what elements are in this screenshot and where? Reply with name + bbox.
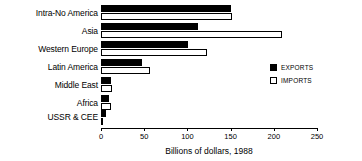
legend-swatch-exports-icon [270, 64, 277, 71]
x-tick [274, 128, 275, 131]
x-axis-line [101, 128, 317, 129]
bar-exports [101, 23, 198, 30]
category-label-latin-america: Latin America [0, 63, 98, 72]
chart-legend: EXPORTS IMPORTS [270, 62, 313, 88]
x-tick [187, 128, 188, 131]
category-label-middle-east: Middle East [0, 81, 98, 90]
bar-imports [101, 13, 232, 20]
x-tick-label: 250 [311, 133, 324, 141]
bar-imports [101, 67, 150, 74]
x-tick [317, 128, 318, 131]
bar-imports [101, 31, 282, 38]
category-label-ussr-cee: USSR & CEE [0, 113, 98, 122]
category-label-western-europe: Western Europe [0, 45, 98, 54]
bar-exports [101, 77, 111, 84]
legend-item-imports: IMPORTS [270, 75, 313, 86]
bar-exports [101, 110, 106, 117]
x-tick-label: 50 [140, 133, 148, 141]
legend-item-exports: EXPORTS [270, 62, 313, 73]
legend-label-imports: IMPORTS [281, 77, 312, 84]
category-label-asia: Asia [0, 27, 98, 36]
legend-label-exports: EXPORTS [281, 64, 313, 71]
bar-exports [101, 59, 142, 66]
bar-exports [101, 5, 231, 12]
category-label-intra-no-america: Intra-No America [0, 9, 98, 18]
category-label-africa: Africa [0, 99, 98, 108]
bar-exports [101, 41, 188, 48]
x-tick [101, 128, 102, 131]
bar-imports [101, 103, 111, 110]
bar-imports [101, 85, 112, 92]
bar-imports [101, 49, 207, 56]
bar-chart: Intra-No America Asia Western Europe Lat… [0, 0, 362, 161]
x-tick-label: 0 [99, 133, 103, 141]
x-tick [231, 128, 232, 131]
bar-imports [101, 118, 103, 125]
category-axis-labels: Intra-No America Asia Western Europe Lat… [0, 0, 98, 125]
x-tick-label: 150 [224, 133, 237, 141]
x-tick-label: 200 [268, 133, 281, 141]
x-axis-title: Billions of dollars, 1988 [101, 146, 317, 156]
x-tick-label: 100 [181, 133, 194, 141]
legend-swatch-imports-icon [270, 77, 277, 84]
bar-exports [101, 95, 109, 102]
x-tick [144, 128, 145, 131]
